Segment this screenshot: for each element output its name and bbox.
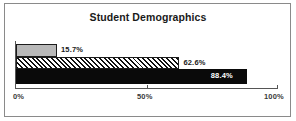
x-axis-label-0: 0% — [13, 92, 24, 101]
x-axis-line — [15, 88, 278, 89]
x-axis-label-50: 50% — [137, 92, 153, 101]
chart-title: Student Demographics — [0, 11, 296, 23]
bar-series-1 — [16, 44, 57, 57]
x-axis-label-100: 100% — [264, 92, 284, 101]
bar-value-label-2: 62.6% — [183, 58, 205, 67]
x-axis-tick-100 — [277, 85, 278, 89]
bar-value-label-3: 88.4% — [211, 71, 233, 80]
bar-series-2 — [16, 57, 179, 69]
x-axis-tick-50 — [147, 85, 148, 88]
bar-value-label-1: 15.7% — [61, 45, 83, 54]
chart-container: Student Demographics 15.7% 62.6% 88.4% 0… — [0, 0, 296, 121]
